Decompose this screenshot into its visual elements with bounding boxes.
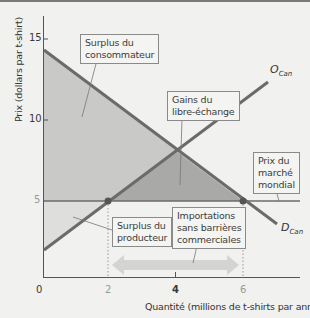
consumer-surplus-label: Surplus du consommateur [80, 34, 159, 64]
x-axis-title: Quantité (millions de t-shirts par année… [145, 301, 310, 312]
world-price-label: Prix du marché mondial [253, 152, 300, 194]
y-tick-label-15: 15 [29, 32, 42, 43]
y-tick-label-10: 10 [29, 113, 42, 124]
gains-from-trade-label: Gains du libre-échange [167, 91, 240, 121]
x-tick-label-2: 2 [105, 284, 111, 295]
producer-surplus-label: Surplus du producteur [112, 217, 172, 247]
supply-main-letter: O [270, 63, 279, 76]
x-tick-label-6: 6 [240, 284, 246, 295]
supply-curve-label: OCan [270, 63, 292, 78]
demand-curve-label: DCan [281, 221, 303, 236]
consumption-point [240, 198, 247, 205]
x-tick-label-4: 4 [172, 284, 179, 295]
y-axis-title: Prix (dollars par t-shirt) [13, 17, 24, 122]
imports-label: Importations sans barrières commerciales [172, 207, 246, 249]
supply-subscript: Can [279, 70, 293, 78]
x-tick-label-0: 0 [36, 284, 42, 295]
y-tick-label-5: 5 [34, 194, 40, 205]
production-point [105, 198, 112, 205]
demand-subscript: Can [289, 228, 303, 236]
